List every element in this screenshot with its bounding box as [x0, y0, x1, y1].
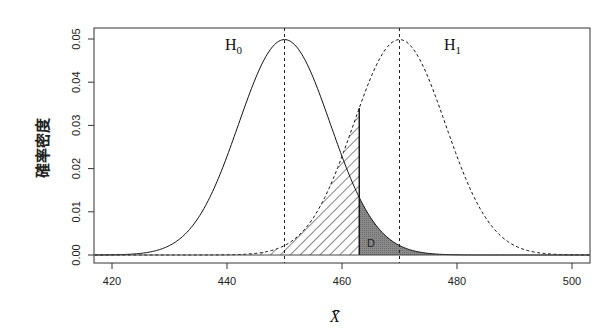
y-tick-label: 0.03: [70, 115, 82, 136]
h1-label: H1: [444, 36, 461, 56]
h0-label: H0: [225, 36, 243, 56]
x-tick-label: 440: [218, 275, 236, 287]
y-tick-label: 0.05: [70, 28, 82, 49]
y-tick-label: 0.01: [70, 201, 82, 222]
y-tick-label: 0.00: [70, 244, 82, 265]
y-tick-label: 0.04: [70, 71, 82, 92]
x-tick-label: 420: [103, 275, 121, 287]
x-tick-label: 460: [333, 275, 351, 287]
x-tick-label: 500: [563, 275, 581, 287]
shaded-region-d: [359, 197, 572, 255]
x-tick-label: 480: [448, 275, 466, 287]
density-chart: 4204404604805000.000.010.020.030.040.05 …: [0, 0, 614, 336]
y-axis-label: 確率密度: [34, 117, 52, 179]
y-tick-label: 0.02: [70, 158, 82, 179]
region-d-label: D: [367, 237, 375, 249]
x-axis-label: X̄: [329, 308, 341, 325]
hatched-region: [227, 108, 359, 255]
